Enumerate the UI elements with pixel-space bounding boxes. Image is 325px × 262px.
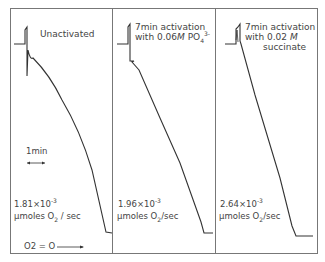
panel-title-phosphate-line2: with 0.06M PO43- — [135, 32, 210, 42]
units-text: μmoles O — [14, 211, 54, 221]
time-scale-label: 1min — [26, 146, 47, 156]
panel-title-succinate-line3: succinate — [263, 42, 306, 52]
ion-charge: 3- — [204, 30, 210, 37]
molar-unit: M — [177, 32, 185, 42]
ion-subscript: 4 — [200, 37, 204, 44]
rate-exponent: -3 — [257, 197, 263, 204]
time-scale-bar — [27, 162, 45, 165]
units-suffix: / sec — [58, 211, 81, 221]
concentration-text: with 0.06 — [135, 32, 177, 42]
ion-text: PO — [185, 32, 200, 42]
panel-title-phosphate-line1: 7min activation — [135, 22, 205, 32]
units-suffix: /sec — [263, 211, 280, 221]
molar-unit: M — [290, 32, 298, 42]
rate-exponent: -3 — [155, 197, 161, 204]
rate-units-phosphate: μmoles O2/sec — [117, 211, 178, 221]
units-text: μmoles O — [117, 211, 157, 221]
rate-value: 2.64×10 — [220, 199, 257, 209]
panel-title-succinate-line1: 7min activation — [245, 22, 315, 32]
rate-label-unactivated: 1.81×10-3 — [14, 199, 57, 209]
rate-value: 1.81×10 — [14, 199, 51, 209]
panel-title-succinate-line2: with 0.02 M — [245, 32, 298, 42]
rate-exponent: -3 — [51, 197, 57, 204]
baseline-label: O2 = O — [24, 241, 55, 251]
baseline-arrow — [57, 246, 84, 249]
units-text: μmoles O — [219, 211, 259, 221]
rate-units-succinate: μmoles O2/sec — [219, 211, 280, 221]
rate-label-succinate: 2.64×10-3 — [220, 199, 263, 209]
concentration-text: with 0.02 — [245, 32, 287, 42]
rate-units-unactivated: μmoles O2 / sec — [14, 211, 81, 221]
rate-label-phosphate: 1.96×10-3 — [118, 199, 161, 209]
rate-value: 1.96×10 — [118, 199, 155, 209]
units-suffix: /sec — [161, 211, 178, 221]
panel-title-unactivated: Unactivated — [40, 29, 94, 39]
